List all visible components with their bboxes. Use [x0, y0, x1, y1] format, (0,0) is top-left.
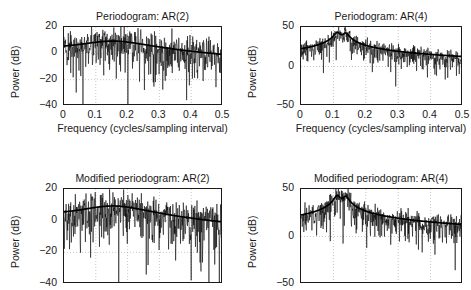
x-tick-label: 0.4	[414, 108, 446, 120]
x-tick-label: 0.5	[446, 108, 471, 120]
x-tick-label: 0.1	[79, 108, 111, 120]
y-tick-label: −40	[13, 276, 57, 288]
series-periodogram	[301, 189, 462, 270]
plot-title: Periodogram: AR(4)	[300, 10, 462, 22]
plot-panel-modified-periodogram-ar2: Modified periodogram: AR(2)−40−20020Powe…	[3, 170, 224, 290]
axes-area	[300, 188, 462, 283]
series-periodogram	[64, 27, 222, 105]
plot-panel-periodogram-ar2: Periodogram: AR(2)−40−20020Power (dB)00.…	[3, 8, 224, 129]
y-axis-label: Power (dB)	[9, 215, 21, 268]
plot-panel-periodogram-ar4: Periodogram: AR(4)−50050Power (dB)00.10.…	[240, 8, 464, 129]
x-axis-label: Frequency (cycles/sampling interval)	[280, 122, 471, 134]
y-axis-label: Power (dB)	[246, 45, 258, 98]
x-axis-label: Frequency (cycles/sampling interval)	[43, 122, 242, 134]
axes-area	[63, 188, 222, 283]
x-tick-label: 0.2	[349, 108, 381, 120]
axes-area	[63, 26, 222, 105]
plot-title: Modified periodogram: AR(2)	[63, 172, 222, 184]
x-tick-label: 0	[47, 108, 79, 120]
x-tick-label: 0.2	[111, 108, 143, 120]
y-tick-label: 50	[250, 181, 294, 193]
y-tick-label: −50	[250, 276, 294, 288]
x-tick-label: 0.4	[174, 108, 206, 120]
y-tick-label: 20	[13, 181, 57, 193]
x-tick-label: 0.5	[206, 108, 238, 120]
x-tick-label: 0.1	[316, 108, 348, 120]
y-axis-label: Power (dB)	[9, 45, 21, 98]
axes-area	[300, 26, 462, 105]
y-tick-label: 50	[250, 19, 294, 31]
series-periodogram	[64, 189, 222, 283]
y-tick-label: 20	[13, 19, 57, 31]
y-axis-label: Power (dB)	[246, 215, 258, 268]
plot-panel-modified-periodogram-ar4: Modified periodogram: AR(4)−50050Power (…	[240, 170, 464, 290]
plot-title: Modified periodogram: AR(4)	[300, 172, 462, 184]
x-tick-label: 0	[284, 108, 316, 120]
x-tick-label: 0.3	[381, 108, 413, 120]
series-periodogram	[301, 27, 462, 86]
x-tick-label: 0.3	[142, 108, 174, 120]
plot-title: Periodogram: AR(2)	[63, 10, 222, 22]
